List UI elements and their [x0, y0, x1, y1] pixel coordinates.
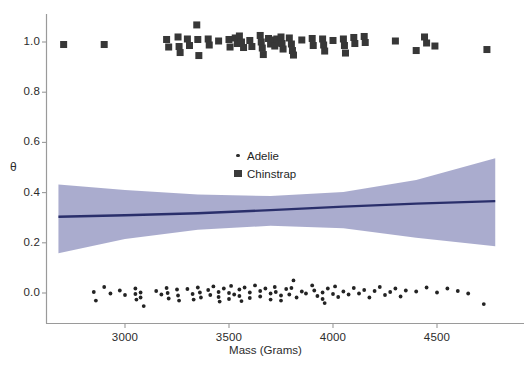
data-point-adelie — [123, 293, 127, 297]
y-tick-label-2: 0.8 — [6, 85, 40, 97]
data-point-adelie — [310, 284, 314, 288]
data-point-chinstrap — [423, 40, 430, 47]
x-tick-marks — [125, 324, 437, 329]
data-point-adelie — [198, 291, 202, 295]
data-point-adelie — [92, 290, 96, 294]
data-point-adelie — [425, 286, 429, 290]
data-point-chinstrap — [248, 43, 255, 50]
data-point-adelie — [165, 286, 169, 290]
data-point-adelie — [227, 297, 231, 301]
data-point-adelie — [217, 290, 221, 294]
data-point-adelie — [368, 296, 372, 300]
data-point-adelie — [273, 285, 277, 289]
data-point-chinstrap — [280, 46, 287, 53]
dot-marker-icon — [231, 154, 245, 158]
data-point-adelie — [284, 287, 288, 291]
data-point-chinstrap — [341, 42, 348, 49]
data-point-adelie — [177, 299, 181, 303]
data-point-chinstrap — [320, 42, 327, 49]
data-point-chinstrap — [193, 21, 200, 28]
data-point-chinstrap — [259, 45, 266, 52]
data-point-chinstrap — [483, 46, 490, 53]
data-point-adelie — [258, 289, 262, 293]
data-point-adelie — [287, 293, 291, 297]
chart-figure: 1.0 0.8 0.6 0.4 0.2 0.0 3000 3500 4000 4… — [0, 0, 531, 366]
legend-item-chinstrap: Chinstrap — [231, 167, 296, 180]
x-tick-label-4: 4500 — [407, 331, 467, 343]
data-point-chinstrap — [215, 38, 222, 45]
data-point-adelie — [238, 288, 242, 292]
data-point-adelie — [196, 286, 200, 290]
data-point-adelie — [191, 292, 195, 296]
data-point-adelie — [414, 290, 418, 294]
data-point-chinstrap — [195, 52, 202, 59]
data-point-chinstrap — [236, 32, 243, 39]
data-point-adelie — [383, 293, 387, 297]
data-point-chinstrap — [246, 37, 253, 44]
data-point-adelie — [232, 293, 236, 297]
legend-label-chinstrap: Chinstrap — [247, 168, 296, 180]
data-point-adelie — [342, 290, 346, 294]
data-point-adelie — [248, 291, 252, 295]
data-point-adelie — [258, 295, 262, 299]
data-point-adelie — [134, 287, 138, 291]
data-point-chinstrap — [260, 51, 267, 58]
data-point-adelie — [274, 290, 278, 294]
data-point-adelie — [347, 293, 351, 297]
data-point-adelie — [378, 285, 382, 289]
data-point-adelie — [217, 295, 221, 299]
data-point-adelie — [388, 290, 392, 294]
data-point-chinstrap — [362, 39, 369, 46]
x-axis-label: Mass (Grams) — [0, 344, 531, 356]
data-point-adelie — [292, 279, 296, 283]
x-tick-label-2: 3500 — [199, 331, 259, 343]
data-point-chinstrap — [342, 50, 349, 57]
data-point-adelie — [316, 294, 320, 298]
data-point-chinstrap — [310, 42, 317, 49]
data-point-adelie — [399, 295, 403, 299]
data-point-chinstrap — [309, 35, 316, 42]
data-point-adelie — [139, 296, 143, 300]
data-point-adelie — [248, 296, 252, 300]
data-point-adelie — [326, 287, 330, 291]
data-point-adelie — [160, 293, 164, 297]
chart-legend: Adelie Chinstrap — [231, 149, 296, 180]
data-point-chinstrap — [205, 35, 212, 42]
data-point-adelie — [186, 287, 190, 291]
data-point-adelie — [333, 285, 337, 289]
data-point-chinstrap — [350, 34, 357, 41]
data-point-adelie — [336, 295, 340, 299]
data-point-chinstrap — [288, 41, 295, 48]
data-point-chinstrap — [392, 38, 399, 45]
data-point-chinstrap — [340, 35, 347, 42]
y-tick-label-3: 0.6 — [6, 135, 40, 147]
data-point-adelie — [142, 304, 146, 308]
data-point-adelie — [208, 293, 212, 297]
data-point-adelie — [482, 302, 486, 306]
data-point-adelie — [312, 289, 316, 293]
data-point-chinstrap — [163, 36, 170, 43]
legend-item-adelie: Adelie — [231, 149, 296, 162]
data-point-chinstrap — [175, 33, 182, 40]
data-point-adelie — [269, 298, 273, 302]
data-point-chinstrap — [330, 37, 337, 44]
data-point-adelie — [212, 285, 216, 289]
data-point-adelie — [218, 300, 222, 304]
data-point-adelie — [94, 299, 98, 303]
data-point-adelie — [154, 289, 158, 293]
data-point-adelie — [404, 289, 408, 293]
data-point-adelie — [323, 301, 327, 305]
data-point-chinstrap — [177, 49, 184, 56]
data-point-adelie — [456, 289, 460, 293]
y-tick-label-6: 0.0 — [6, 286, 40, 298]
y-axis-label: θ — [10, 160, 17, 174]
data-point-adelie — [175, 288, 179, 292]
data-point-adelie — [435, 291, 439, 295]
y-tick-label-5: 0.2 — [6, 236, 40, 248]
data-point-chinstrap — [240, 44, 247, 51]
data-point-chinstrap — [321, 48, 328, 55]
data-point-adelie — [227, 291, 231, 295]
data-point-adelie — [304, 292, 308, 296]
data-point-adelie — [102, 285, 106, 289]
data-point-adelie — [290, 286, 294, 290]
